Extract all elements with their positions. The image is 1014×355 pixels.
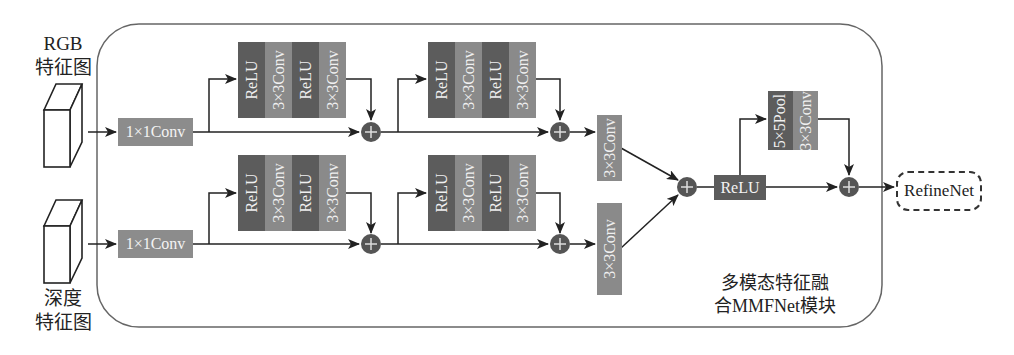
depth-label-line2: 特征图 bbox=[30, 311, 96, 335]
add-node-merge bbox=[677, 177, 697, 197]
add-node-top-1 bbox=[361, 122, 381, 142]
module-title-line1: 多模态特征融 bbox=[690, 272, 860, 295]
conv3x3-layer: 3×3Conv bbox=[514, 50, 532, 110]
module-title-line2: 合MMFNet模块 bbox=[690, 295, 860, 318]
relu-layer: ReLU bbox=[297, 173, 315, 212]
conv3x3-layer: 3×3Conv bbox=[324, 50, 342, 110]
conv3x3-layer: 3×3Conv bbox=[797, 91, 815, 151]
res-block-top-1: ReLU 3×3Conv ReLU 3×3Conv bbox=[238, 42, 346, 118]
relu-layer: ReLU bbox=[433, 60, 451, 99]
conv3x3-top-label: 3×3Conv bbox=[601, 118, 619, 178]
res-block-top-2: ReLU 3×3Conv ReLU 3×3Conv bbox=[428, 42, 536, 118]
add-node-final bbox=[839, 177, 859, 197]
add-node-bottom-1 bbox=[361, 234, 381, 254]
relu-layer: ReLU bbox=[433, 173, 451, 212]
rgb-label-line1: RGB bbox=[30, 32, 96, 56]
refinenet-output: RefineNet bbox=[896, 171, 982, 211]
relu-layer: ReLU bbox=[487, 173, 505, 212]
rgb-feature-cube-icon bbox=[44, 84, 82, 167]
conv3x3-layer: 3×3Conv bbox=[270, 50, 288, 110]
conv3x3-layer: 3×3Conv bbox=[514, 163, 532, 223]
rgb-input-label: RGB 特征图 bbox=[30, 32, 96, 80]
conv3x3-layer: 3×3Conv bbox=[460, 163, 478, 223]
pool-conv-block: 5×5Pool 3×3Conv bbox=[768, 91, 818, 150]
module-title: 多模态特征融 合MMFNet模块 bbox=[690, 272, 860, 318]
depth-feature-cube-icon bbox=[44, 200, 82, 283]
add-node-top-2 bbox=[550, 122, 570, 142]
conv3x3-layer: 3×3Conv bbox=[270, 163, 288, 223]
relu-layer: ReLU bbox=[243, 173, 261, 212]
relu-layer: ReLU bbox=[487, 60, 505, 99]
fusion-relu: ReLU bbox=[714, 175, 766, 200]
add-node-bottom-2 bbox=[550, 234, 570, 254]
conv3x3-layer: 3×3Conv bbox=[324, 163, 342, 223]
conv1x1-top: 1×1Conv bbox=[118, 118, 193, 146]
res-block-bottom-2: ReLU 3×3Conv ReLU 3×3Conv bbox=[428, 155, 536, 231]
rgb-label-line2: 特征图 bbox=[30, 56, 96, 80]
conv3x3-bottom: 3×3Conv bbox=[597, 203, 622, 295]
conv3x3-top: 3×3Conv bbox=[597, 115, 622, 181]
relu-layer: ReLU bbox=[243, 60, 261, 99]
pool5x5-layer: 5×5Pool bbox=[772, 93, 790, 147]
depth-input-label: 深度 特征图 bbox=[30, 287, 96, 335]
depth-label-line1: 深度 bbox=[30, 287, 96, 311]
res-block-bottom-1: ReLU 3×3Conv ReLU 3×3Conv bbox=[238, 155, 346, 231]
conv3x3-layer: 3×3Conv bbox=[460, 50, 478, 110]
conv3x3-bottom-label: 3×3Conv bbox=[601, 219, 619, 279]
relu-layer: ReLU bbox=[297, 60, 315, 99]
conv1x1-bottom: 1×1Conv bbox=[118, 230, 193, 258]
